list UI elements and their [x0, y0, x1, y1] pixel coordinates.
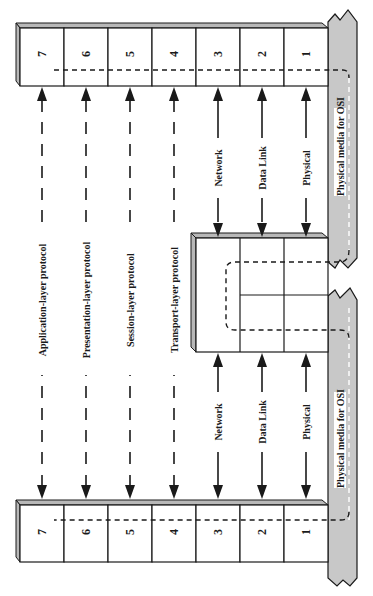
physical-media-bottom: Physical media for OSI [328, 288, 357, 586]
peer-protocol-label: Presentation-layer protocol [81, 242, 92, 359]
layer-cell-4: 4 [152, 505, 196, 562]
layer-number: 4 [167, 529, 181, 535]
end-system-b: 7654321 [16, 500, 328, 562]
arrow-up-icon [213, 353, 223, 367]
layer-cell-6: 6 [64, 28, 108, 86]
arrow-down-icon [169, 485, 179, 499]
arrow-down-icon [257, 485, 267, 499]
hop-protocol-label-top: Network [213, 149, 224, 187]
intermediate-node [191, 233, 328, 352]
layer-cell-5: 5 [108, 505, 152, 562]
arrow-up-icon [213, 87, 223, 101]
layer-cell-2: 2 [240, 28, 284, 86]
layer-number: 2 [255, 529, 269, 535]
layer-number: 3 [211, 529, 225, 535]
layer-number: 2 [255, 51, 269, 57]
layer-number: 6 [79, 51, 93, 57]
layer-number: 5 [123, 529, 137, 535]
arrow-up-icon [37, 87, 47, 101]
layer-cell-1: 1 [284, 505, 328, 562]
arrow-down-icon [301, 485, 311, 499]
arrow-up-icon [257, 353, 267, 367]
layer-number: 1 [299, 51, 313, 57]
layer-cell-4: 4 [152, 28, 196, 86]
hop-protocol-label-bottom: Network [213, 403, 224, 441]
media-label-bottom: Physical media for OSI [335, 389, 346, 488]
end-system-a: 7654321 [16, 23, 328, 86]
arrow-up-icon [81, 87, 91, 101]
media-label-top: Physical media for OSI [335, 97, 346, 196]
hop-protocol-label-top: Data Link [257, 146, 268, 190]
layer-cell-3: 3 [196, 28, 240, 86]
layer-cell-1: 1 [284, 28, 328, 86]
peer-protocol-label: Transport-layer protocol [169, 247, 180, 353]
layer-cell-2: 2 [240, 505, 284, 562]
hop-protocol-label-bottom: Physical [301, 404, 312, 440]
hop-protocol-label-bottom: Data Link [257, 400, 268, 444]
layer-number: 7 [35, 529, 49, 535]
hop-protocol-label-top: Physical [301, 150, 312, 186]
layer-cell-6: 6 [64, 505, 108, 562]
osi-diagram: Physical media for OSI Physical media fo… [0, 0, 373, 596]
arrow-up-icon [257, 87, 267, 101]
arrow-up-icon [301, 353, 311, 367]
arrow-up-icon [169, 87, 179, 101]
layer-cell-7: 7 [20, 28, 64, 86]
peer-protocol-label: Session-layer protocol [125, 253, 136, 347]
layer-number: 1 [299, 529, 313, 535]
layer-number: 3 [211, 51, 225, 57]
physical-media-top: Physical media for OSI [328, 10, 357, 268]
arrow-down-icon [81, 485, 91, 499]
layer-number: 5 [123, 51, 137, 57]
layer-cell-7: 7 [20, 505, 64, 562]
layer-number: 4 [167, 51, 181, 57]
layer-cell-3: 3 [196, 505, 240, 562]
arrow-down-icon [125, 485, 135, 499]
arrow-down-icon [37, 485, 47, 499]
arrow-up-icon [301, 87, 311, 101]
arrow-down-icon [213, 485, 223, 499]
layer-number: 7 [35, 51, 49, 57]
layer-cell-5: 5 [108, 28, 152, 86]
arrow-up-icon [125, 87, 135, 101]
layer-number: 6 [79, 529, 93, 535]
peer-protocol-label: Application-layer protocol [37, 243, 48, 356]
